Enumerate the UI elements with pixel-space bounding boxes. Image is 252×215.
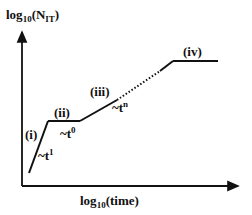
- regime-label-i: (i): [25, 127, 37, 142]
- regime-label-ii: (ii): [54, 105, 70, 120]
- scaling-label-ii: ~t0: [60, 125, 76, 141]
- segment-iii-dotted: [117, 71, 160, 100]
- scaling-label-i: ~t1: [38, 147, 54, 163]
- x-axis-label: log10(time): [80, 193, 139, 210]
- segment-iii-solid-end: [160, 61, 173, 71]
- scaling-label-iii: ~tn: [112, 99, 128, 115]
- y-axis-label: log10(NIT): [6, 7, 59, 24]
- regime-label-iv: (iv): [183, 44, 202, 59]
- growth-regime-diagram: log10(NIT) log10(time) (i) (ii) (iii) (i…: [0, 0, 252, 215]
- regime-label-iii: (iii): [90, 84, 110, 99]
